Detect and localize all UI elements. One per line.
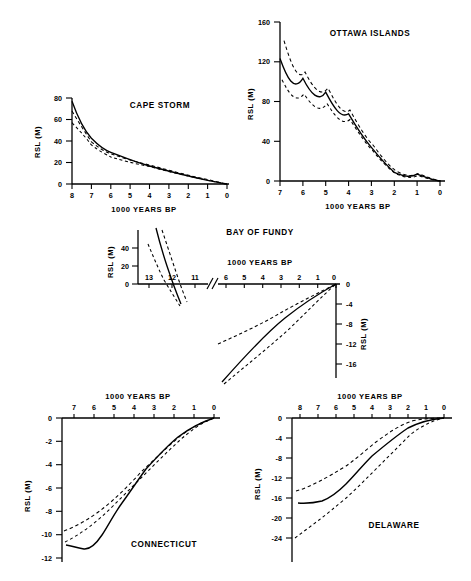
x-tick-label: 2 <box>172 403 176 412</box>
panel-title: CAPE STORM <box>130 101 190 110</box>
x-tick-label: 6 <box>109 191 113 200</box>
x-tick-label: 2 <box>406 403 410 412</box>
x-tick-label: 13 <box>145 273 153 282</box>
x-axis-title: 1000 YEARS BP <box>105 392 171 401</box>
x-tick-label: 11 <box>191 273 199 282</box>
y-ticks-lower <box>336 304 342 364</box>
x-tick-label: 1 <box>192 403 196 412</box>
y-tick-label: 20 <box>54 158 62 167</box>
y-ticks <box>66 98 72 184</box>
y-tick-label: -4 <box>346 300 352 309</box>
y-tick-label: -2 <box>46 437 52 446</box>
rsl-curve-lower <box>295 418 444 538</box>
x-tick-label: 6 <box>224 273 228 282</box>
x-tick-label: 4 <box>370 403 374 412</box>
y-ticks-upper <box>132 248 138 284</box>
x-tick-label: 3 <box>388 403 392 412</box>
x-tick-label: 0 <box>442 403 446 412</box>
rsl-curve-upper <box>64 418 214 531</box>
x-axis-title: 1000 YEARS BP <box>325 202 391 211</box>
rsl-curve-central <box>298 418 444 503</box>
y-tick-label: 80 <box>54 94 62 103</box>
x-tick-label: 4 <box>347 188 351 197</box>
x-tick-label: 3 <box>152 403 156 412</box>
panel-title: BAY OF FUNDY <box>226 228 294 237</box>
y-tick-label: -12 <box>42 554 52 563</box>
panel-ottawa-islands: 0 40 80 120 160 7 6 5 4 3 2 1 0 OTTAWA I… <box>240 16 465 206</box>
panel-connecticut: 0 -2 -4 -6 -8 -10 -12 7 6 5 4 3 2 1 0 CO… <box>12 392 237 577</box>
y-tick-label: 40 <box>262 137 270 146</box>
x-tick-label: 6 <box>92 403 96 412</box>
y-ticks <box>286 418 292 538</box>
panel-title: OTTAWA ISLANDS <box>330 29 411 38</box>
y-tick-label: 0 <box>125 280 129 289</box>
x-tick-label: 3 <box>167 191 171 200</box>
connecticut-svg: 0 -2 -4 -6 -8 -10 -12 7 6 5 4 3 2 1 0 CO… <box>12 392 237 577</box>
x-tick-label: 5 <box>352 403 356 412</box>
fundy-lower-curve-central <box>222 284 336 382</box>
rsl-curve-lower <box>65 418 214 542</box>
x-tick-label: 6 <box>301 188 305 197</box>
y-tick-label: 0 <box>346 280 350 289</box>
y-tick-label: 0 <box>48 414 52 423</box>
delaware-svg: 0 -4 -8 -12 -16 -20 -24 8 7 6 5 4 3 2 1 … <box>242 392 470 577</box>
bay-of-fundy-svg: 0 20 40 RSL (M) 13 12 11 6 5 4 3 2 1 0 <box>100 226 400 386</box>
y-tick-label: -12 <box>346 340 356 349</box>
y-axis-title-upper: RSL (M) <box>106 246 115 278</box>
x-ticks <box>72 184 227 189</box>
y-tick-label: -16 <box>272 494 282 503</box>
y-tick-label: 0 <box>266 177 270 186</box>
x-tick-label: 7 <box>72 403 76 412</box>
x-tick-label: 0 <box>438 188 442 197</box>
y-tick-label: 80 <box>262 97 270 106</box>
rsl-curve-upper <box>296 418 444 491</box>
y-tick-label: -8 <box>276 454 282 463</box>
y-tick-label: 40 <box>54 137 62 146</box>
rsl-curve-central <box>66 418 214 549</box>
y-axis-title: RSL (M) <box>253 468 262 500</box>
rsl-curve-central <box>72 101 227 184</box>
x-tick-label: 7 <box>316 403 320 412</box>
y-tick-label: 0 <box>58 180 62 189</box>
x-tick-label: 0 <box>225 191 229 200</box>
y-tick-label: 120 <box>258 57 270 66</box>
x-tick-label: 3 <box>279 273 283 282</box>
ottawa-islands-svg: 0 40 80 120 160 7 6 5 4 3 2 1 0 OTTAWA I… <box>240 16 465 206</box>
y-tick-label: 20 <box>121 262 129 271</box>
x-axis-title: 1000 YEARS BP <box>111 205 177 214</box>
y-tick-label: -20 <box>272 514 282 523</box>
y-tick-label: 60 <box>54 115 62 124</box>
x-tick-label: 6 <box>334 403 338 412</box>
y-axis-title: RSL (M) <box>33 126 42 158</box>
x-axis-title: 1000 YEARS BP <box>227 258 293 267</box>
rsl-curve-upper <box>284 41 441 181</box>
y-tick-label: -4 <box>276 434 282 443</box>
x-tick-label: 5 <box>128 191 132 200</box>
x-tick-label: 1 <box>415 188 419 197</box>
y-tick-label: -4 <box>46 460 52 469</box>
fundy-curve-upper-bound <box>162 230 187 302</box>
y-tick-label: -10 <box>42 530 52 539</box>
x-tick-label: 7 <box>278 188 282 197</box>
x-tick-label: 5 <box>242 273 246 282</box>
y-tick-label: -24 <box>272 534 282 543</box>
x-tick-label: 7 <box>89 191 93 200</box>
x-tick-label: 2 <box>392 188 396 197</box>
rsl-curve-lower <box>72 123 227 184</box>
x-tick-label: 5 <box>112 403 116 412</box>
y-ticks <box>56 418 62 558</box>
y-tick-label: 0 <box>278 414 282 423</box>
y-axis-title: RSL (M) <box>23 480 32 512</box>
y-tick-label: 160 <box>258 18 270 27</box>
panel-bay-of-fundy: 0 20 40 RSL (M) 13 12 11 6 5 4 3 2 1 0 <box>100 226 400 386</box>
panel-title: DELAWARE <box>368 521 419 530</box>
x-tick-label: 4 <box>148 191 152 200</box>
panel-cape-storm: 0 20 40 60 80 8 7 6 5 4 3 2 1 0 CAPE STO… <box>22 92 237 204</box>
fundy-lower-curve-upper <box>218 284 336 344</box>
y-tick-label: -6 <box>46 484 52 493</box>
fundy-curve-central-upper <box>156 228 181 304</box>
x-tick-label: 0 <box>212 403 216 412</box>
x-axis-title: 1000 YEARS BP <box>337 392 403 401</box>
x-tick-label: 2 <box>186 191 190 200</box>
x-tick-label: 5 <box>324 188 328 197</box>
